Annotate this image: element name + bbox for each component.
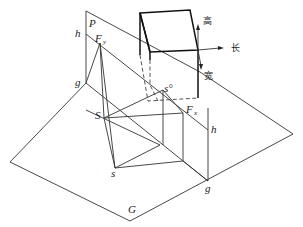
- label-G: G: [128, 203, 136, 215]
- ground-plane: [10, 72, 293, 221]
- label-S: S: [95, 109, 101, 121]
- label-h-right: h: [211, 123, 217, 135]
- point-labels: P h F y g S s s° F x h g G: [75, 17, 217, 215]
- label-Fy-sub: y: [102, 38, 107, 46]
- height-axis-label: 高: [203, 15, 212, 26]
- width-axis-label: 宽: [204, 70, 213, 81]
- label-P: P: [88, 17, 96, 29]
- direction-arrows: 高 长 宽: [196, 15, 240, 81]
- label-s0: s°: [164, 82, 173, 94]
- label-g-right: g: [205, 182, 211, 194]
- diagram-canvas: 高 长 宽 P h F y g S s s° F x h g G: [0, 0, 303, 227]
- label-Fx-sub: x: [193, 109, 198, 117]
- label-g-left: g: [75, 76, 81, 88]
- label-Fy: F: [94, 32, 102, 44]
- label-s: s: [111, 167, 115, 179]
- label-Fx: F: [185, 103, 193, 115]
- length-axis-label: 长: [231, 42, 240, 53]
- label-h-left: h: [75, 27, 81, 39]
